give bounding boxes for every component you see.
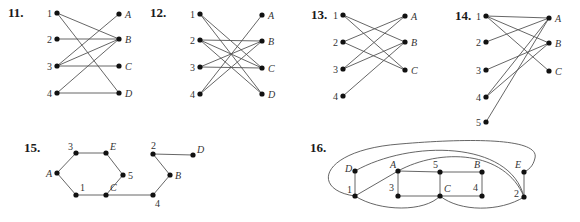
vertex-label: 1 (476, 11, 481, 22)
vertex-C (546, 68, 551, 73)
vertex-label: 1 (80, 182, 85, 193)
graph-15: 15.3EA51C2DB4 (24, 140, 205, 209)
vertex-label: 3 (333, 64, 338, 75)
edge-4-B (153, 175, 170, 195)
vertex-C (103, 192, 108, 197)
vertex-label: 1 (190, 9, 195, 20)
vertex-label: C (110, 182, 117, 193)
vertex-label: 3 (190, 62, 195, 73)
vertex-1 (197, 11, 202, 16)
edge-1-C (486, 16, 549, 71)
vertex-D (352, 168, 357, 173)
vertex-4 (340, 93, 345, 98)
vertex-label: A (389, 159, 397, 170)
vertex-A (395, 168, 400, 173)
vertex-label: D (124, 88, 133, 99)
edge-4-B (343, 42, 405, 96)
vertex-2 (340, 39, 345, 44)
vertex-D (116, 90, 121, 95)
vertex-label: 2 (476, 37, 481, 48)
vertex-label: D (196, 144, 205, 155)
vertex-1 (73, 192, 78, 197)
graph-12: 12.1234ABCD (150, 5, 276, 100)
vertex-A (116, 11, 121, 16)
vertex-label: D (267, 89, 276, 100)
vertex-label: 1 (347, 184, 352, 195)
vertex-label: C (444, 183, 451, 194)
vertex-label: 5 (433, 159, 438, 170)
vertex-A (54, 170, 59, 175)
vertex-label: E (514, 159, 521, 170)
vertex-label: 2 (47, 34, 52, 45)
problem-number: 16. (310, 140, 326, 155)
edge-E-5 (106, 153, 123, 175)
edge-3-A (343, 16, 405, 69)
vertex-5 (483, 119, 488, 124)
vertex-label: 4 (47, 88, 52, 99)
vertex-B (259, 38, 264, 43)
vertex-A (259, 12, 264, 17)
vertex-D (190, 152, 195, 157)
edge-2-B (200, 40, 262, 41)
edge-3-B (57, 39, 119, 66)
vertex-E (521, 169, 526, 174)
vertex-C (437, 193, 442, 198)
graph-exercises-canvas: 11.1234ABCD12.1234ABCD13.1234ABC14.12345… (0, 0, 580, 222)
vertex-4 (479, 193, 484, 198)
edge-1-A (486, 16, 549, 18)
graph-13: 13.1234ABC (311, 7, 418, 102)
vertex-A (546, 15, 551, 20)
edge-A-5 (398, 171, 440, 172)
edge-1-A (57, 173, 76, 195)
vertex-label: 3 (68, 141, 73, 152)
vertex-2 (150, 151, 155, 156)
vertex-B (546, 40, 551, 45)
vertex-3 (395, 193, 400, 198)
vertex-4 (197, 91, 202, 96)
vertex-C (259, 65, 264, 70)
edge-3-B (486, 43, 549, 70)
vertex-4 (483, 94, 488, 99)
vertex-label: C (125, 61, 132, 72)
vertex-B (402, 39, 407, 44)
vertex-5 (437, 169, 442, 174)
vertex-label: A (410, 11, 418, 22)
vertex-label: 2 (151, 140, 156, 151)
vertex-3 (73, 150, 78, 155)
vertex-label: 3 (476, 65, 481, 76)
vertex-label: B (555, 38, 561, 49)
vertex-B (479, 169, 484, 174)
vertex-label: 2 (514, 188, 519, 199)
vertex-label: 3 (47, 61, 52, 72)
vertex-C (402, 67, 407, 72)
vertex-D (259, 91, 264, 96)
problem-number: 12. (150, 5, 166, 20)
vertex-label: A (554, 13, 562, 24)
vertex-label: 5 (128, 170, 133, 181)
vertex-label: A (267, 10, 275, 21)
vertex-2 (54, 36, 59, 41)
vertex-label: B (175, 170, 181, 181)
curved-edge-A-2 (398, 157, 524, 197)
vertex-label: E (109, 141, 116, 152)
vertex-label: 2 (333, 37, 338, 48)
graph-16: 16.D1A35CB4E2 (310, 140, 535, 208)
vertex-5 (120, 172, 125, 177)
graph-11: 11.1234ABCD (8, 5, 133, 99)
vertex-A (402, 13, 407, 18)
vertex-label: B (411, 37, 417, 48)
vertex-label: B (268, 36, 274, 47)
edge-1-B (57, 13, 119, 39)
vertex-label: 5 (476, 117, 481, 128)
vertex-4 (150, 192, 155, 197)
edge-1-D (57, 13, 119, 93)
vertex-label: A (124, 9, 132, 20)
vertex-label: 4 (155, 198, 160, 209)
vertex-label: 1 (333, 10, 338, 21)
vertex-B (167, 172, 172, 177)
problem-number: 14. (455, 8, 471, 23)
problem-number: 11. (8, 5, 24, 20)
vertex-label: 4 (333, 91, 338, 102)
vertex-B (116, 36, 121, 41)
vertex-3 (483, 67, 488, 72)
